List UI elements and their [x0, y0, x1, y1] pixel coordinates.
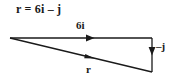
vector-diagram-figure: r = 6i – j 6i –j r [0, 0, 174, 83]
vector-minus-j-arrowhead-icon [149, 47, 156, 56]
vector-r-group [10, 38, 152, 72]
vector-6i-group [10, 35, 152, 42]
vector-minus-j-label: –j [156, 41, 165, 52]
vector-r-label: r [86, 64, 91, 75]
vector-minus-j-group [149, 38, 156, 72]
vector-r-arrowhead-icon [84, 54, 94, 59]
vector-6i-label: 6i [76, 20, 85, 31]
vector-r-line [10, 38, 152, 72]
vector-6i-arrowhead-icon [86, 35, 95, 42]
